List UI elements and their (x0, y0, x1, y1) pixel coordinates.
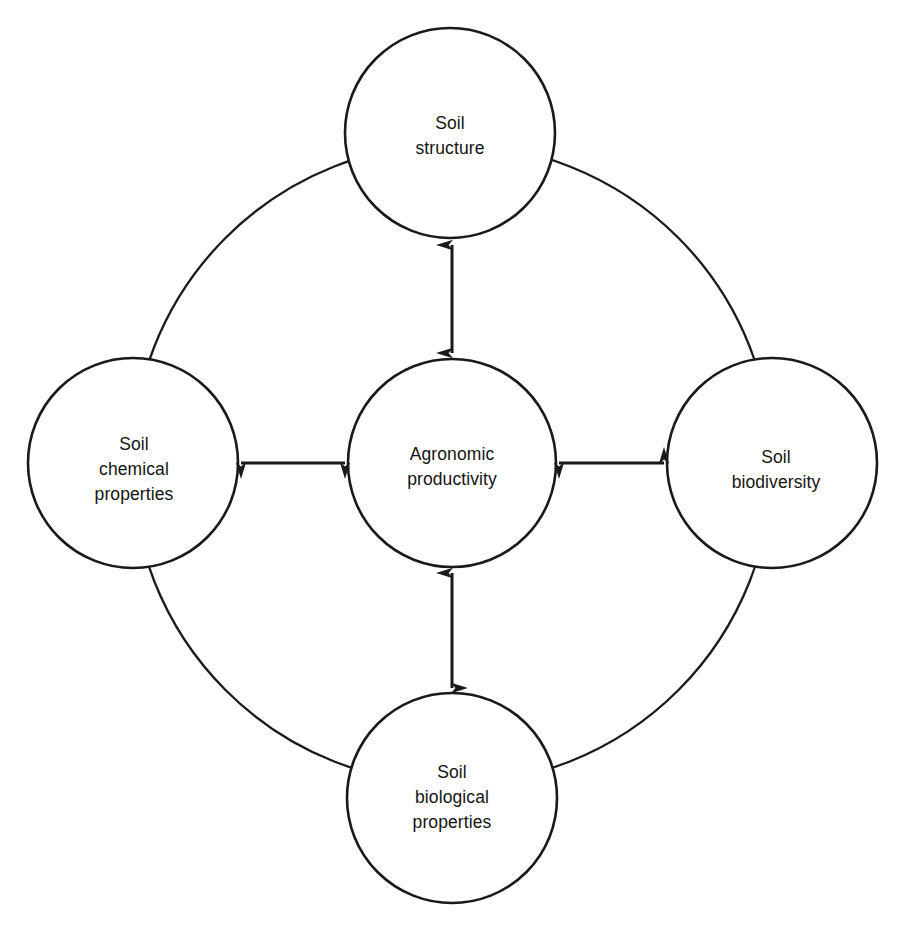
node-circle-agronomic-productivity[interactable] (348, 359, 556, 567)
node-circle-soil-chemical-properties[interactable] (28, 358, 238, 568)
node-circle-soil-biological-properties[interactable] (347, 693, 557, 903)
node-circle-soil-structure[interactable] (345, 28, 555, 238)
diagram-svg (0, 0, 897, 925)
node-circle-soil-biodiversity[interactable] (667, 358, 877, 568)
diagram-canvas: Soil structure Soil chemical properties … (0, 0, 897, 925)
